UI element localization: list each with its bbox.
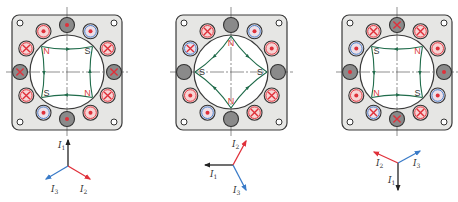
phasor-label-i3: I3 — [232, 185, 241, 196]
mounting-hole-icon — [111, 119, 117, 125]
conductor-slot — [200, 105, 215, 120]
current-out-dot-icon — [89, 29, 93, 33]
mounting-hole-icon — [181, 119, 187, 125]
conductor-slot — [60, 112, 75, 127]
current-out-dot-icon — [354, 94, 358, 98]
pole-label-n: N — [84, 88, 91, 98]
phasor-label-i2: I2 — [231, 139, 240, 150]
conductor-slot — [264, 88, 279, 103]
current-out-dot-icon — [65, 23, 69, 27]
pole-label-n: N — [228, 96, 235, 106]
conductor-slot — [19, 41, 34, 56]
conductor-slot — [437, 65, 452, 80]
conductor-slot — [224, 18, 239, 33]
mounting-hole-icon — [17, 20, 23, 26]
conductor-slot — [343, 65, 358, 80]
mounting-hole-icon — [347, 20, 353, 26]
phasor-label-i3: I3 — [412, 158, 421, 169]
conductor-slot — [264, 41, 279, 56]
conductor-slot — [183, 41, 198, 56]
conductor-slot — [247, 24, 262, 39]
current-out-dot-icon — [436, 94, 440, 98]
conductor-slot — [390, 112, 405, 127]
conductor-slot — [100, 88, 115, 103]
mounting-hole-icon — [17, 119, 23, 125]
conductor-slot — [271, 65, 286, 80]
stator-panel-3: SNSNI1I2I3 — [336, 7, 458, 190]
phasor-label-i1: I1 — [57, 140, 65, 151]
pole-label-s: S — [43, 88, 49, 98]
current-out-dot-icon — [436, 47, 440, 51]
phasor-label-i1: I1 — [209, 169, 217, 180]
mounting-hole-icon — [181, 20, 187, 26]
mounting-hole-icon — [111, 20, 117, 26]
conductor-slot — [349, 88, 364, 103]
stator-panel-1: NSNSI1I2I3 — [6, 7, 128, 195]
conductor-slot — [36, 105, 51, 120]
phasor-diagram: I1I2I3 — [46, 140, 90, 195]
conductor-slot — [100, 41, 115, 56]
pole-label-n: N — [43, 46, 50, 56]
pole-label-s: S — [84, 46, 90, 56]
current-out-dot-icon — [270, 47, 274, 51]
pole-label-s: S — [414, 88, 420, 98]
phasor-label-i3: I3 — [50, 184, 59, 195]
current-out-dot-icon — [89, 111, 93, 115]
conductor-slot — [13, 65, 28, 80]
pole-label-n: N — [373, 88, 380, 98]
current-out-dot-icon — [253, 29, 257, 33]
conductor-slot — [366, 24, 381, 39]
conductor-slot — [430, 88, 445, 103]
mounting-hole-icon — [347, 119, 353, 125]
current-out-dot-icon — [442, 70, 446, 74]
conductor-slot — [247, 105, 262, 120]
pole-label-n: N — [414, 46, 421, 56]
current-out-dot-icon — [188, 94, 192, 98]
phasor-label-i2: I2 — [79, 184, 88, 195]
phasor-label-i1: I1 — [387, 175, 395, 186]
current-out-dot-icon — [206, 111, 210, 115]
stator-panel-2: NSNSI1I2I3 — [170, 7, 293, 196]
conductor-slot — [83, 24, 98, 39]
current-out-dot-icon — [348, 70, 352, 74]
phasor-diagram: I1I2I3 — [374, 151, 421, 190]
conductor-slot — [349, 41, 364, 56]
conductor-slot — [224, 112, 239, 127]
pole-label-s: S — [373, 46, 379, 56]
pole-label-n: N — [228, 38, 235, 48]
conductor-slot — [390, 18, 405, 33]
phasor-diagram: I1I2I3 — [205, 139, 246, 196]
current-out-dot-icon — [65, 117, 69, 121]
current-out-dot-icon — [42, 29, 46, 33]
conductor-slot — [107, 65, 122, 80]
conductor-slot — [413, 24, 428, 39]
pole-label-s: S — [257, 67, 263, 77]
current-out-dot-icon — [354, 47, 358, 51]
conductor-slot — [19, 88, 34, 103]
pole-label-s: S — [199, 67, 205, 77]
mounting-hole-icon — [276, 20, 282, 26]
mounting-hole-icon — [276, 119, 282, 125]
phasor-i3 — [46, 166, 68, 179]
conductor-slot — [430, 41, 445, 56]
conductor-slot — [200, 24, 215, 39]
conductor-slot — [83, 105, 98, 120]
rotating-field-diagram: NSNSI1I2I3 NSNSI1I2I3 SNSNI1I2I3 — [0, 0, 458, 202]
conductor-slot — [60, 18, 75, 33]
conductor-slot — [177, 65, 192, 80]
phasor-label-i2: I2 — [375, 158, 384, 169]
mounting-hole-icon — [441, 119, 447, 125]
mounting-hole-icon — [441, 20, 447, 26]
conductor-slot — [36, 24, 51, 39]
phasor-i2 — [68, 166, 90, 179]
current-out-dot-icon — [42, 111, 46, 115]
conductor-slot — [183, 88, 198, 103]
conductor-slot — [413, 105, 428, 120]
conductor-slot — [366, 105, 381, 120]
